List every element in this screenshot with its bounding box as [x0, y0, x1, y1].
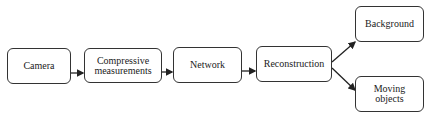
node-reconstruction: Reconstruction — [256, 46, 332, 82]
node-background: Background — [355, 6, 424, 42]
node-moving-objects: Moving objects — [355, 76, 424, 112]
node-compressive-measurements: Compressive measurements — [84, 48, 162, 83]
node-label: Network — [190, 60, 225, 70]
node-label: Reconstruction — [264, 59, 325, 69]
node-label: Camera — [23, 61, 54, 71]
edge-reconstruction-moving — [332, 68, 355, 90]
edge-reconstruction-background — [332, 42, 355, 62]
node-label: Background — [365, 19, 414, 29]
node-label: Moving objects — [368, 84, 412, 104]
node-camera: Camera — [7, 48, 71, 84]
node-label: Compressive measurements — [91, 56, 155, 76]
node-network: Network — [173, 47, 242, 83]
